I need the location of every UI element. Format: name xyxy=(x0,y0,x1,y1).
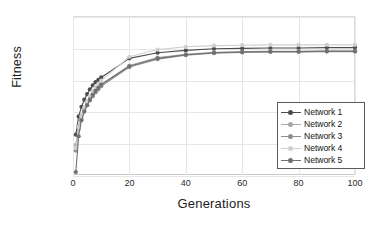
data-point-marker xyxy=(268,43,272,47)
data-point-marker xyxy=(353,43,357,47)
legend-label: Network 5 xyxy=(304,155,342,165)
data-point-marker xyxy=(93,89,97,93)
legend-marker-icon xyxy=(281,143,301,153)
x-tick-label: 20 xyxy=(114,178,144,188)
data-point-marker xyxy=(212,51,216,55)
legend-item-2[interactable]: Network 2 xyxy=(278,118,364,130)
data-point-marker xyxy=(99,82,103,86)
data-point-marker xyxy=(85,103,89,107)
data-point-marker xyxy=(184,45,188,49)
legend-item-1[interactable]: Network 1 xyxy=(278,106,364,118)
gridline-horizontal xyxy=(73,176,354,177)
data-point-marker xyxy=(127,64,131,68)
data-point-marker xyxy=(127,55,131,59)
legend-marker-icon xyxy=(281,131,301,141)
data-point-marker xyxy=(88,98,92,102)
legend-marker-icon xyxy=(281,155,301,165)
data-point-marker xyxy=(77,134,81,138)
legend-item-3[interactable]: Network 3 xyxy=(278,130,364,142)
x-tick-label: 60 xyxy=(227,178,257,188)
data-point-marker xyxy=(184,48,188,52)
data-point-marker xyxy=(297,43,301,47)
data-point-marker xyxy=(74,170,78,174)
legend-label: Network 3 xyxy=(304,131,342,141)
data-point-marker xyxy=(91,93,95,97)
data-point-marker xyxy=(325,43,329,47)
legend-label: Network 1 xyxy=(304,107,342,117)
data-point-marker xyxy=(184,53,188,57)
legend-label: Network 2 xyxy=(304,119,342,129)
legend: Network 1Network 2Network 3Network 4Netw… xyxy=(277,102,365,169)
x-tick-label: 40 xyxy=(171,178,201,188)
y-axis-title: Fitness xyxy=(10,27,24,107)
data-point-marker xyxy=(99,79,103,83)
data-point-marker xyxy=(156,56,160,60)
data-point-marker xyxy=(82,110,86,114)
x-axis-title: Generations xyxy=(73,196,355,211)
x-tick-label: 100 xyxy=(340,178,370,188)
data-point-marker xyxy=(156,47,160,51)
data-point-marker xyxy=(325,49,329,53)
data-point-marker xyxy=(79,118,83,122)
data-point-marker xyxy=(212,44,216,48)
legend-label: Network 4 xyxy=(304,143,342,153)
data-point-marker xyxy=(96,86,100,90)
legend-marker-icon xyxy=(281,107,301,117)
fitness-convergence-chart: Fitness Generations 98000098400098800099… xyxy=(0,0,390,226)
data-point-marker xyxy=(297,49,301,53)
x-tick-label: 80 xyxy=(284,178,314,188)
data-point-marker xyxy=(240,50,244,54)
x-tick-label: 0 xyxy=(58,178,88,188)
legend-item-4[interactable]: Network 4 xyxy=(278,142,364,154)
data-point-marker xyxy=(268,49,272,53)
data-point-marker xyxy=(240,43,244,47)
data-point-marker xyxy=(353,49,357,53)
legend-item-5[interactable]: Network 5 xyxy=(278,154,364,166)
legend-marker-icon xyxy=(281,119,301,129)
